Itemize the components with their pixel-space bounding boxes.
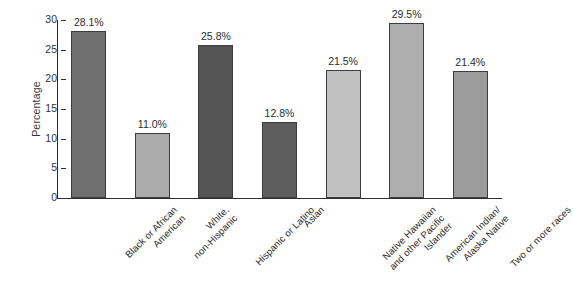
bar-value-label: 29.5% <box>377 8 437 20</box>
y-axis-tick-label: 20 <box>45 72 57 84</box>
bar <box>389 23 424 198</box>
x-axis-category-label: Black or African American <box>123 204 188 269</box>
bar-value-label: 11.0% <box>122 118 182 130</box>
y-axis-tick: 5 <box>0 168 66 169</box>
y-axis-tick-label: 30 <box>45 13 57 25</box>
y-axis-tick-mark <box>61 79 66 80</box>
y-axis-tick-mark <box>61 139 66 140</box>
bar-value-label: 28.1% <box>59 16 119 28</box>
y-axis-tick-label: 0 <box>51 191 57 203</box>
y-axis-tick-label: 15 <box>45 102 57 114</box>
y-axis-tick: 10 <box>0 139 66 140</box>
y-axis-tick: 15 <box>0 109 66 110</box>
y-axis-tick-mark <box>61 198 66 199</box>
bar-value-label: 12.8% <box>250 107 310 119</box>
y-axis-tick-label: 10 <box>45 132 57 144</box>
y-axis-tick-mark <box>61 168 66 169</box>
bar-value-label: 25.8% <box>186 30 246 42</box>
bar <box>326 70 361 198</box>
x-axis-line <box>57 198 502 199</box>
bar <box>135 133 170 198</box>
bar <box>262 122 297 198</box>
bar-value-label: 21.5% <box>313 55 373 67</box>
bar <box>71 31 106 198</box>
bar-value-label: 21.4% <box>440 56 500 68</box>
y-axis-tick: 0 <box>0 198 66 199</box>
bar <box>198 45 233 198</box>
x-axis-category-label: Two or more races <box>508 204 573 270</box>
y-axis-tick: 20 <box>0 79 66 80</box>
y-axis-tick-mark <box>61 109 66 110</box>
x-axis-category-label: Native Hawaiian and other Pacific Island… <box>378 204 454 280</box>
y-axis-tick: 30 <box>0 20 66 21</box>
y-axis-tick: 25 <box>0 50 66 51</box>
y-axis-tick-mark <box>61 50 66 51</box>
x-axis-category-label: American Indian/ Alaska Native <box>442 204 510 272</box>
y-axis-tick-label: 25 <box>45 43 57 55</box>
x-axis-category-label: White, non-Hispanic <box>183 204 240 261</box>
bottom-caption <box>66 274 446 286</box>
bar <box>453 71 488 198</box>
y-axis-tick-label: 5 <box>51 161 57 173</box>
